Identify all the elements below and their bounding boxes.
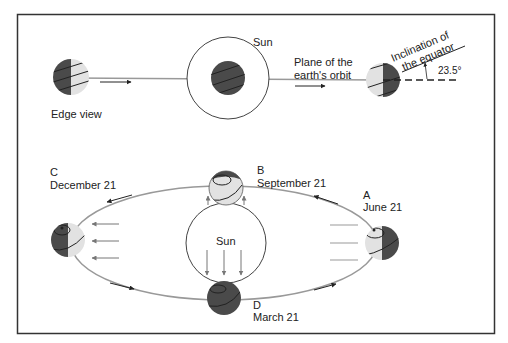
edge-view-label: Edge view [51, 108, 102, 120]
orbit-plane-label-line1: Plane of the [294, 56, 353, 68]
orbit-plane-label-line2: earth's orbit [294, 69, 351, 81]
sun-label-top: Sun [253, 36, 273, 48]
earth-seasons-diagram: Edge view Sun Plane of the earth's orbit [0, 0, 508, 343]
position-c-letter: C [50, 166, 58, 178]
orbit-arrow-bottom-right [314, 284, 336, 290]
earth-position-c [51, 223, 85, 257]
position-d-letter: D [253, 299, 261, 311]
position-d-date: March 21 [253, 311, 299, 323]
position-c-date: December 21 [50, 179, 116, 191]
earth-position-a [365, 226, 399, 260]
position-b-letter: B [257, 164, 264, 176]
orbit-arrow-bottom-left [110, 283, 134, 289]
position-a-letter: A [363, 189, 371, 201]
earth-position-d [207, 281, 241, 315]
orbit-arrow-top-right [314, 196, 338, 204]
sun-label-bottom: Sun [216, 235, 236, 247]
position-a-date: June 21 [363, 201, 402, 213]
angle-value-label: 23.5° [438, 65, 461, 76]
position-b-date: September 21 [257, 177, 326, 189]
angle-arrow [425, 63, 427, 79]
edge-view-earth [50, 55, 92, 100]
bottom-panel: Sun [50, 164, 402, 323]
top-panel: Edge view Sun Plane of the earth's orbit [50, 28, 465, 120]
